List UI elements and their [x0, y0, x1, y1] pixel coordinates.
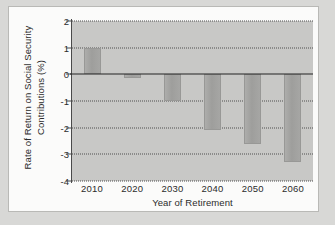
zero-baseline [70, 74, 313, 75]
bar-2010 [84, 48, 101, 75]
y-axis-title-line-1: Rate of Return on Social Security [23, 25, 36, 169]
bar-2040 [204, 74, 221, 130]
bar-2050 [244, 74, 261, 143]
y-axis-title-text: Rate of Return on Social Security Contri… [23, 25, 48, 169]
figure-card: Rate of Return on Social Security Contri… [8, 6, 319, 212]
y-axis-tick-mark [66, 101, 72, 102]
gridline [72, 127, 313, 128]
y-axis-tick-mark [66, 127, 72, 128]
y-axis-tick-mark [66, 181, 72, 182]
x-axis-tick-label: 2060 [282, 183, 304, 194]
bar-2020 [124, 74, 141, 78]
y-axis-tick-mark [66, 154, 72, 155]
x-axis-tick-label: 2040 [202, 183, 224, 194]
gridline [72, 181, 313, 182]
plot-area [72, 21, 313, 181]
x-axis-title: Year of Retirement [72, 197, 313, 208]
x-axis-tick-label: 2020 [121, 183, 143, 194]
y-axis-title-line-2: Contributions (%) [35, 25, 48, 169]
x-axis-tick-label: 2050 [242, 183, 264, 194]
gridline [72, 101, 313, 102]
x-axis-tick-label: 2030 [161, 183, 183, 194]
bar-2030 [164, 74, 181, 101]
y-axis-tick-mark [66, 47, 72, 48]
y-axis-tick-mark [66, 21, 72, 22]
gridline [72, 21, 313, 22]
gridline [72, 154, 313, 155]
x-axis-tick-label: 2010 [81, 183, 103, 194]
bar-2060 [284, 74, 301, 162]
gridline [72, 47, 313, 48]
